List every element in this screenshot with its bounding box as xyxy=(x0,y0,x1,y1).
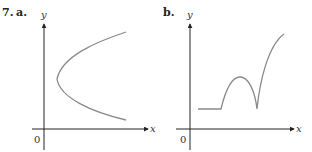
panel-b-x-axis-label: x xyxy=(296,123,302,134)
problem-number: 7. xyxy=(2,6,13,19)
panel-a-y-axis-label: y xyxy=(40,9,47,20)
panel-a: a. y x 0 xyxy=(16,6,156,150)
panel-a-label: a. xyxy=(16,6,27,19)
panel-b-label: b. xyxy=(163,6,175,19)
panel-a-origin-label: 0 xyxy=(34,134,40,145)
panel-a-curve xyxy=(57,32,126,120)
panel-b-origin-label: 0 xyxy=(180,134,186,145)
panel-b-y-axis-label: y xyxy=(186,9,193,20)
panel-b-curve xyxy=(198,34,284,109)
figure-canvas: 7. a. y x 0 b. y x 0 xyxy=(0,0,312,152)
panel-a-x-axis-label: x xyxy=(150,123,156,134)
panel-b: b. y x 0 xyxy=(163,6,302,150)
